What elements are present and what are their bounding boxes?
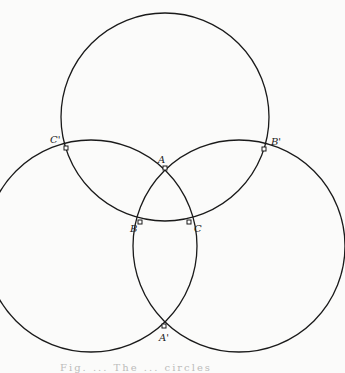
left-circle	[0, 140, 197, 352]
point-label: B'	[271, 136, 281, 147]
point-label: A'	[159, 332, 169, 343]
right-circle	[133, 140, 345, 352]
point-label: B	[130, 223, 137, 234]
point-label: C'	[50, 134, 60, 145]
point-marker	[163, 166, 167, 170]
figure-caption: Fig. ... The ... circles	[60, 362, 260, 373]
point-label: C	[194, 223, 202, 234]
point-marker	[262, 147, 266, 151]
point-marker	[187, 220, 191, 224]
point-marker	[162, 324, 166, 328]
top-circle	[61, 13, 269, 221]
point-marker	[138, 220, 142, 224]
geometry-figure	[0, 0, 345, 373]
point-label: A	[158, 154, 165, 165]
point-marker	[64, 146, 68, 150]
